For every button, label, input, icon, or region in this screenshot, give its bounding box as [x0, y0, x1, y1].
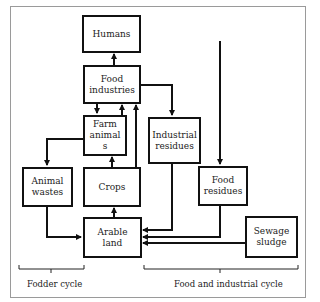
node-crops: Crops — [83, 167, 141, 207]
node-industrial-residues: Industrial residues — [148, 117, 201, 164]
node-arable-land-label: Arable land — [97, 227, 127, 249]
node-farm-animals: Farm animal s — [83, 115, 127, 156]
node-humans-label: Humans — [93, 29, 131, 40]
node-farm-animals-label: Farm animal s — [90, 119, 121, 152]
node-crops-label: Crops — [99, 182, 126, 193]
node-food-residues: Food residues — [198, 166, 248, 206]
node-animal-wastes: Animal wastes — [22, 167, 73, 207]
node-food-industries-label: Food industries — [89, 74, 135, 96]
node-sewage-sludge-label: Sewage sludge — [254, 226, 290, 248]
group-label-food-industrial-cycle: Food and industrial cycle — [174, 279, 283, 289]
node-food-industries: Food industries — [83, 65, 141, 104]
node-animal-wastes-label: Animal wastes — [32, 176, 64, 198]
node-arable-land: Arable land — [83, 217, 142, 258]
group-label-fodder-cycle: Fodder cycle — [27, 279, 82, 289]
node-food-residues-label: Food residues — [204, 175, 243, 197]
node-humans: Humans — [82, 15, 141, 53]
node-industrial-residues-label: Industrial residues — [152, 130, 197, 152]
node-sewage-sludge: Sewage sludge — [245, 216, 298, 258]
